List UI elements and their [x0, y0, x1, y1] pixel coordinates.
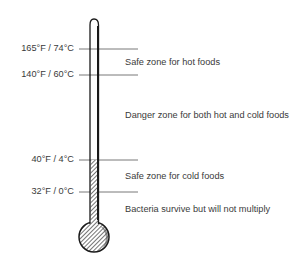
food-safety-thermometer-diagram: 165°F / 74°C 140°F / 60°C 40°F / 4°C 32°… — [0, 0, 304, 259]
temp-label-140f: 140°F / 60°C — [0, 69, 74, 80]
zone-label-safe-hot: Safe zone for hot foods — [125, 56, 300, 68]
temp-label-32f: 32°F / 0°C — [0, 186, 74, 197]
zone-label-safe-cold: Safe zone for cold foods — [125, 170, 300, 182]
zone-label-danger: Danger zone for both hot and cold foods — [125, 109, 295, 121]
zone-label-bacteria: Bacteria survive but will not multiply — [125, 203, 300, 215]
temp-label-40f: 40°F / 4°C — [0, 154, 74, 165]
mercury-column — [91, 160, 98, 225]
thermometer-icon — [0, 0, 304, 259]
temp-label-165f: 165°F / 74°C — [0, 43, 74, 54]
